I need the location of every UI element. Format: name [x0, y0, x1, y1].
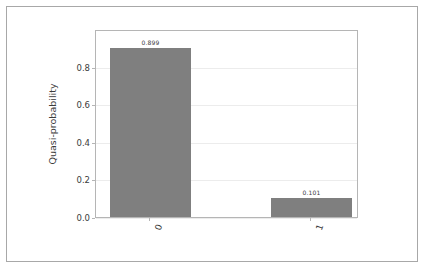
y-tick-label-1: 0.2 [76, 175, 90, 185]
y-tick-label-0: 0.0 [76, 213, 90, 223]
bar-value-label-0: 0.899 [110, 39, 191, 46]
y-axis-title: Quasi-probability [46, 30, 60, 218]
screenshot-root: Quasi-probability 0.0 0.2 0.4 0.6 0.8 [0, 0, 424, 268]
y-tick-label-4: 0.8 [76, 63, 90, 73]
x-tick-label-0: 0 [153, 223, 164, 232]
plot-area: 0.899 0.101 [95, 30, 358, 218]
bar-1[interactable] [271, 198, 352, 217]
bar-0[interactable] [110, 48, 191, 217]
bar-chart-figure: Quasi-probability 0.0 0.2 0.4 0.6 0.8 [0, 0, 424, 268]
bar-value-label-1: 0.101 [271, 189, 352, 196]
x-tick-label-1: 1 [314, 223, 325, 232]
x-axis: 0 1 [95, 218, 358, 258]
x-tick-mark-0 [149, 218, 150, 221]
y-tick-label-2: 0.4 [76, 138, 90, 148]
x-tick-mark-1 [310, 218, 311, 221]
y-tick-label-3: 0.6 [76, 100, 90, 110]
y-axis-tick-labels: 0.0 0.2 0.4 0.6 0.8 [63, 30, 90, 218]
